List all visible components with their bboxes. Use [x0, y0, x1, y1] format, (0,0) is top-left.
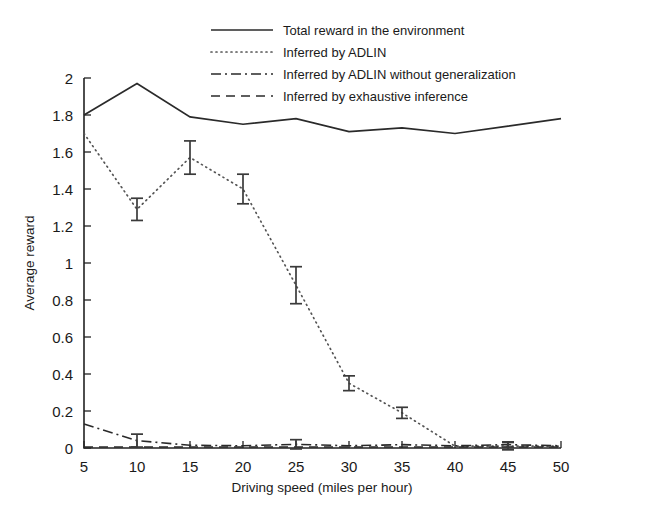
y-tick-label: 1.8	[52, 107, 73, 124]
legend-label: Total reward in the environment	[283, 23, 465, 38]
legend-item: Inferred by exhaustive inference	[211, 89, 468, 104]
x-tick-label: 35	[394, 458, 411, 475]
x-tick-label: 50	[553, 458, 570, 475]
error-bar	[237, 174, 249, 204]
y-tick-label: 1	[65, 255, 73, 272]
y-tick-label: 0.8	[52, 292, 73, 309]
legend-label: Inferred by exhaustive inference	[283, 89, 468, 104]
x-tick-label: 25	[288, 458, 305, 475]
x-tick-label: 40	[447, 458, 464, 475]
legend-item: Total reward in the environment	[211, 23, 465, 38]
y-tick-label: 0.2	[52, 403, 73, 420]
series-line-2	[84, 424, 561, 446]
x-tick-label: 30	[341, 458, 358, 475]
x-tick-label: 45	[500, 458, 517, 475]
x-tick-label: 10	[129, 458, 146, 475]
y-tick-label: 0.6	[52, 329, 73, 346]
axis-frame	[84, 78, 561, 448]
chart-figure: 00.20.40.60.811.21.41.61.82 510152025303…	[0, 0, 647, 512]
y-tick-label: 0	[65, 440, 73, 457]
legend-label: Inferred by ADLIN	[283, 45, 386, 60]
line-chart-svg: 00.20.40.60.811.21.41.61.82 510152025303…	[0, 0, 647, 512]
error-bar	[131, 434, 143, 447]
y-tick-label: 0.4	[52, 366, 73, 383]
x-axis-tick-labels: 5101520253035404550	[80, 458, 570, 475]
y-axis-title: Average reward	[22, 215, 37, 310]
x-tick-label: 15	[182, 458, 199, 475]
y-axis-ticks	[84, 78, 91, 448]
x-axis-title: Driving speed (miles per hour)	[232, 480, 413, 495]
error-bar	[343, 376, 355, 391]
error-bar	[131, 198, 143, 220]
error-bar	[396, 407, 408, 418]
chart-legend: Total reward in the environmentInferred …	[211, 23, 516, 104]
y-axis-tick-labels: 00.20.40.60.811.21.41.61.82	[52, 70, 73, 457]
error-bar	[290, 267, 302, 304]
legend-label: Inferred by ADLIN without generalization	[283, 67, 516, 82]
x-tick-label: 20	[235, 458, 252, 475]
x-tick-label: 5	[80, 458, 88, 475]
error-bars-layer	[131, 141, 514, 450]
series-line-1	[84, 134, 561, 447]
y-tick-label: 2	[65, 70, 73, 87]
y-tick-label: 1.4	[52, 181, 73, 198]
data-series-layer	[84, 84, 561, 448]
legend-item: Inferred by ADLIN without generalization	[211, 67, 516, 82]
error-bar	[184, 141, 196, 174]
legend-item: Inferred by ADLIN	[211, 45, 386, 60]
y-tick-label: 1.2	[52, 218, 73, 235]
y-tick-label: 1.6	[52, 144, 73, 161]
